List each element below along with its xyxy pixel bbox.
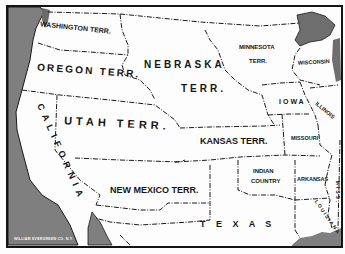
label-nebraska-terr: TERR. — [181, 84, 226, 94]
label-indian-country: INDIAN — [253, 168, 274, 174]
label-arkansas: ARKANSAS — [297, 177, 328, 183]
label-mississippi: MISS. — [335, 181, 340, 205]
label-kansas-terr: KANSAS TERR. — [200, 137, 268, 146]
label-indian-country-2: COUNTRY — [251, 178, 280, 184]
territorial-map: WASHINGTON TERR. OREGON TERR. CALIFORNIA… — [0, 0, 345, 254]
label-texas: T E X A S — [200, 220, 275, 229]
label-minnesota-terr: TERR. — [249, 58, 267, 64]
label-minnesota: MINNESOTA — [239, 44, 275, 50]
label-missouri: MISSOURI — [291, 136, 318, 142]
label-iowa: IOWA — [279, 98, 306, 105]
label-new-mexico-terr: NEW MEXICO TERR. — [110, 186, 199, 195]
label-nebraska: NEBRASKA — [144, 60, 225, 70]
map-credit: WILLIAM EVERGREEN CO. N.Y. — [14, 237, 73, 241]
